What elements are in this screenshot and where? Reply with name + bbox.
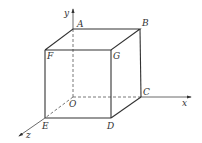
vertex-label-C: C [143,87,150,97]
vertex-label-B: B [141,18,149,28]
vertex-label-G: G [113,51,120,61]
vertex-label-F: F [46,51,54,61]
cube-diagram: y x z A B F G O C E D [0,0,202,143]
edge-DC [111,97,141,118]
vertex-label-D: D [106,121,114,131]
edge-BC [140,29,141,97]
axis-label-y: y [63,8,70,18]
axis-label-x: x [182,98,187,108]
axis-label-z: z [25,130,31,140]
vertex-label-A: A [76,19,84,29]
vertex-label-E: E [41,121,49,131]
edge-top-face [45,29,140,50]
vertex-label-O: O [69,99,77,109]
